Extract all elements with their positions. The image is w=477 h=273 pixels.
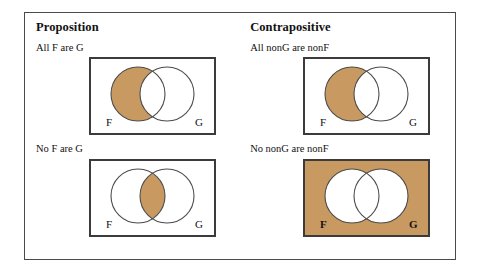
venn-svg-all-nong-are-nonf: F G (303, 57, 430, 135)
venn-diagram-all-nong-are-nonf: F G (303, 57, 455, 135)
column-heading-proposition: Proposition (36, 21, 242, 35)
venn-label-g: G (409, 116, 417, 128)
venn-diagram-no-f-are-g: F G (89, 159, 242, 237)
column-proposition: Proposition All F are G (25, 21, 242, 259)
case-label-no-f-are-g: No F are G (36, 143, 242, 155)
figure-columns: Proposition All F are G (25, 13, 455, 259)
case-label-all-nong-are-nonf: All nonG are nonF (250, 42, 455, 54)
column-heading-contrapositive: Contrapositive (250, 21, 455, 35)
venn-svg-no-f-are-g: F G (89, 159, 216, 237)
venn-label-g: G (409, 218, 418, 230)
venn-label-f: F (106, 116, 112, 128)
venn-label-f: F (106, 218, 112, 230)
venn-diagram-all-f-are-g: F G (89, 57, 242, 135)
case-label-all-f-are-g: All F are G (36, 42, 242, 54)
case-label-no-nong-are-nonf: No nonG are nonF (250, 143, 455, 155)
region-circles-unshaded (325, 169, 408, 223)
venn-diagram-no-nong-are-nonf: F G (303, 159, 455, 237)
venn-svg-all-f-are-g: F G (89, 57, 216, 135)
venn-label-f: F (320, 116, 326, 128)
figure-frame: Proposition All F are G (24, 12, 456, 260)
case-no-nong-are-nonf: No nonG are nonF F G (250, 143, 455, 237)
venn-label-f: F (320, 218, 327, 230)
venn-label-g: G (195, 116, 203, 128)
case-all-f-are-g: All F are G F (36, 42, 242, 136)
venn-label-g: G (195, 218, 203, 230)
case-all-nong-are-nonf: All nonG are nonF F (250, 42, 455, 136)
column-contrapositive: Contrapositive All nonG are nonF (242, 21, 455, 259)
case-no-f-are-g: No F are G F G (36, 143, 242, 237)
venn-svg-no-nong-are-nonf: F G (303, 159, 430, 237)
